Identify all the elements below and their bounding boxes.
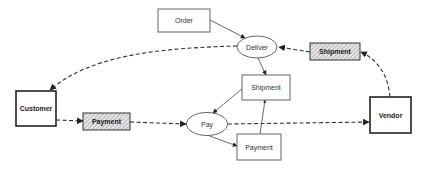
edge-shipment-flow-to-deliver <box>279 47 310 52</box>
node-shipment-label: Shipment <box>251 84 281 92</box>
edge-payment-to-shipment <box>260 100 265 134</box>
node-order[interactable]: Order <box>158 9 210 32</box>
node-pay[interactable]: Pay <box>187 113 228 136</box>
edge-pay-to-payment <box>207 135 237 146</box>
node-deliver-label: Deliver <box>246 44 268 51</box>
node-payment-flow[interactable]: Payment <box>83 113 130 130</box>
node-shipment[interactable]: Shipment <box>242 75 290 100</box>
node-payment-flow-label: Payment <box>92 118 122 126</box>
node-shipment-flow[interactable]: Shipment <box>310 43 360 60</box>
edge-deliver-to-shipment <box>258 58 266 75</box>
edge-shipment-to-pay <box>213 88 243 113</box>
edge-customer-to-payment-flow <box>56 120 83 121</box>
node-customer-label: Customer <box>20 105 53 112</box>
edge-deliver-to-customer <box>50 46 237 90</box>
node-deliver[interactable]: Deliver <box>237 36 277 58</box>
node-order-label: Order <box>175 17 194 24</box>
process-diagram: Order Deliver Shipment Shipment Customer… <box>0 0 427 170</box>
edge-vendor-to-shipment-flow <box>361 52 390 97</box>
node-vendor[interactable]: Vendor <box>370 97 411 133</box>
edge-order-to-deliver <box>210 20 245 38</box>
node-pay-label: Pay <box>201 121 214 129</box>
node-shipment-flow-label: Shipment <box>319 48 352 56</box>
node-customer[interactable]: Customer <box>16 91 56 126</box>
edge-pay-to-vendor <box>228 122 369 124</box>
node-vendor-label: Vendor <box>379 112 403 119</box>
node-payment-label: Payment <box>245 144 273 152</box>
node-payment[interactable]: Payment <box>237 134 281 160</box>
edge-payment-flow-to-pay <box>130 122 186 124</box>
